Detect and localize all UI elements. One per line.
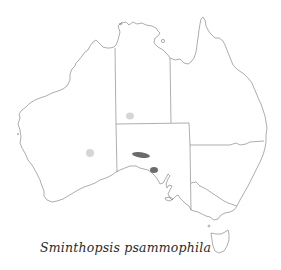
australia-map xyxy=(0,0,281,270)
mainland-coastline xyxy=(18,17,267,220)
historic-range-nt xyxy=(126,113,134,120)
current-range-eyre xyxy=(150,167,158,173)
nt-sa-border xyxy=(116,123,189,124)
historic-range-wa xyxy=(86,149,94,157)
tasmania-coastline xyxy=(211,230,229,253)
groote-eylandt xyxy=(161,39,164,42)
rottnest-island xyxy=(17,133,18,134)
qld-nsw-border xyxy=(190,141,264,145)
sa-qld-nsw-border xyxy=(189,123,191,210)
king-island xyxy=(208,225,210,227)
current-range-nw-sa xyxy=(132,151,151,159)
species-caption: Sminthopsis psammophila xyxy=(40,240,211,255)
wa-nt-border xyxy=(115,48,117,172)
nsw-vic-border xyxy=(191,182,237,206)
range-layer xyxy=(86,113,158,174)
nt-qld-border xyxy=(170,58,171,123)
kangaroo-island xyxy=(165,197,173,201)
